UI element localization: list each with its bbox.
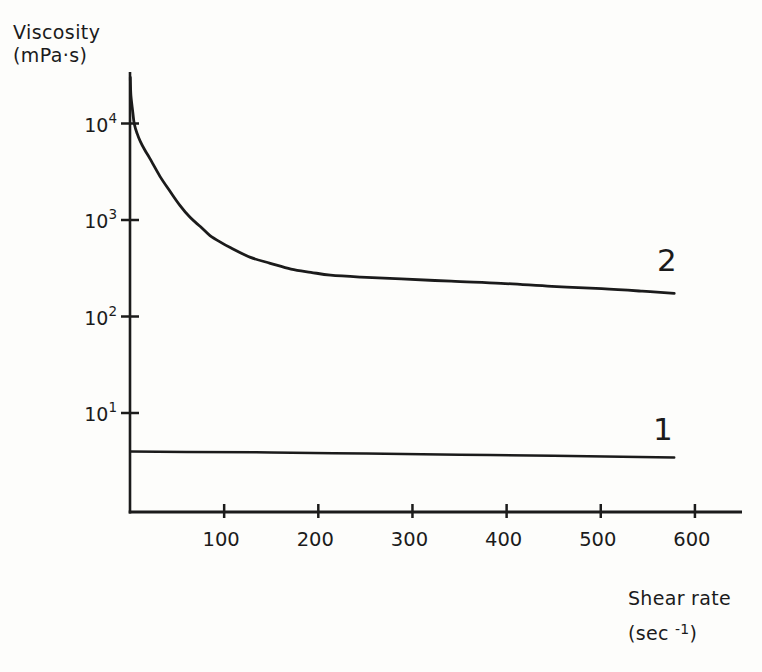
x-axis-title-line1: Shear rate — [628, 583, 731, 614]
x-tick-label: 600 — [673, 528, 710, 551]
y-axis-title: Viscosity (mPa·s) — [13, 21, 100, 67]
y-tick-label: 104 — [84, 110, 117, 136]
curve-1-newtonian-path — [130, 451, 674, 457]
y-axis-title-line1: Viscosity — [13, 21, 100, 44]
y-tick-label: 102 — [84, 303, 117, 329]
y-tick-label: 103 — [84, 206, 117, 232]
chart-canvas: 104103102101100200300400500600 — [0, 0, 762, 672]
x-axis-title: Shear rate (sec -1) — [628, 583, 731, 649]
x-axis-unit-suffix: ) — [690, 622, 698, 644]
curve-2-label: 2 — [657, 243, 677, 277]
figure: 104103102101100200300400500600 Viscosity… — [0, 0, 762, 672]
x-tick-label: 200 — [297, 528, 334, 551]
x-axis-unit-prefix: (sec — [628, 622, 675, 644]
x-tick-label: 100 — [203, 528, 240, 551]
y-tick-label: 101 — [84, 399, 117, 425]
x-tick-label: 300 — [391, 528, 428, 551]
curve-1-label: 1 — [653, 412, 673, 446]
x-axis-unit-exponent: -1 — [675, 621, 690, 637]
x-tick-label: 500 — [579, 528, 616, 551]
curve-2-shear-thinning-path — [130, 78, 674, 294]
x-axis-title-unit: (sec -1) — [628, 614, 731, 649]
x-tick-label: 400 — [485, 528, 522, 551]
y-axis-title-line2: (mPa·s) — [13, 44, 100, 67]
